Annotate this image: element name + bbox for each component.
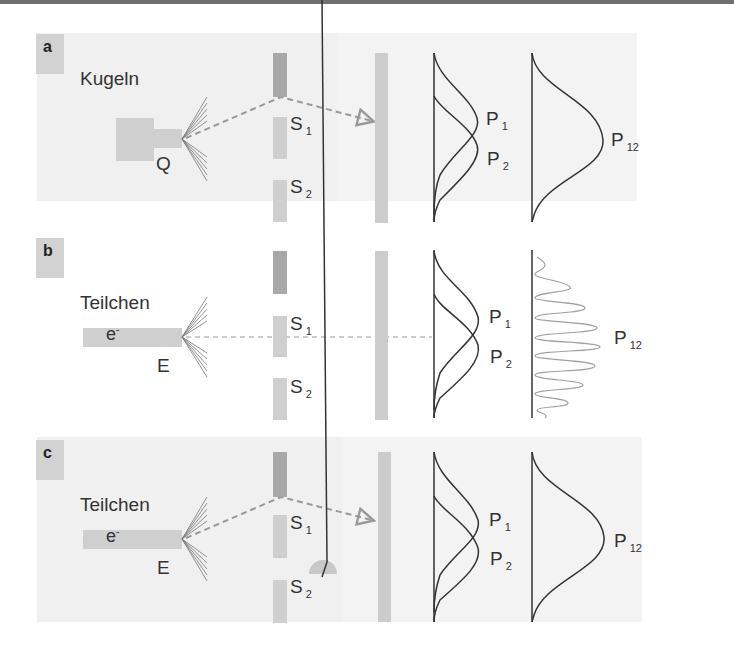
s1-text: S	[290, 512, 303, 533]
s2-sub: 2	[306, 588, 312, 600]
s1-sub: 1	[306, 524, 312, 536]
electron-gun	[83, 530, 182, 549]
panel-a-title: Kugeln	[80, 68, 139, 90]
e-sup: -	[116, 324, 119, 335]
curve-label-p1: P1	[489, 306, 511, 330]
spray-icon	[182, 97, 207, 181]
source-label-q: Q	[156, 153, 171, 175]
cannon-barrel	[152, 129, 182, 148]
e-text: e	[106, 526, 116, 546]
panel-c-title: Teilchen	[80, 494, 150, 516]
p1-sub: 1	[505, 521, 511, 533]
p1-text: P	[486, 108, 499, 129]
particle-label: e-	[106, 526, 119, 547]
s2-text: S	[290, 376, 303, 397]
p2-sub: 2	[503, 160, 509, 172]
curve-label-p12: P12	[611, 129, 639, 153]
s1-sub: 1	[306, 325, 312, 337]
p12-sub: 12	[627, 141, 639, 153]
s2-sub: 2	[306, 188, 312, 200]
e-text: e	[106, 324, 116, 344]
source-label-e: E	[157, 557, 170, 579]
s1-text: S	[290, 113, 303, 134]
curve-label-p2: P2	[487, 148, 509, 172]
s1-text: S	[290, 313, 303, 334]
p2-text: P	[487, 148, 500, 169]
s2-sub: 2	[306, 388, 312, 400]
p2-sub: 2	[506, 358, 512, 370]
particle-label: e-	[106, 324, 119, 345]
source-label-e: E	[157, 355, 170, 377]
slit-label-s1: S1	[290, 313, 312, 337]
panel-b-title: Teilchen	[80, 292, 150, 314]
curve-label-p2: P2	[490, 346, 512, 370]
curve-label-p12: P12	[614, 530, 642, 554]
p2-text: P	[490, 548, 503, 569]
curve-label-p1: P1	[486, 108, 508, 132]
spray-icon	[182, 297, 207, 377]
curve-label-p12: P12	[614, 327, 642, 351]
curve-label-p2: P2	[490, 548, 512, 572]
slit-label-s2: S2	[290, 376, 312, 400]
p12-text: P	[614, 530, 627, 551]
p1-sub: 1	[505, 318, 511, 330]
p1-text: P	[489, 509, 502, 530]
slit-label-s2: S2	[290, 576, 312, 600]
slit-label-s2: S2	[290, 176, 312, 200]
s2-text: S	[290, 176, 303, 197]
e-sup: -	[116, 526, 119, 537]
p2-text: P	[490, 346, 503, 367]
p1-sub: 1	[502, 120, 508, 132]
p2-sub: 2	[506, 560, 512, 572]
panel-c-graphics	[83, 0, 604, 623]
curve-label-p1: P1	[489, 509, 511, 533]
p1-text: P	[489, 306, 502, 327]
slit-label-s1: S1	[290, 512, 312, 536]
p12-sub: 12	[630, 339, 642, 351]
spray-icon	[182, 497, 207, 581]
s2-text: S	[290, 576, 303, 597]
s1-sub: 1	[306, 125, 312, 137]
panel-b-graphics	[83, 250, 600, 420]
p12-sub: 12	[630, 542, 642, 554]
panel-a-graphics	[116, 53, 603, 223]
electron-gun	[83, 328, 182, 347]
p12-text: P	[614, 327, 627, 348]
slit-label-s1: S1	[290, 113, 312, 137]
cannon-body	[116, 118, 154, 161]
p12-text: P	[611, 129, 624, 150]
